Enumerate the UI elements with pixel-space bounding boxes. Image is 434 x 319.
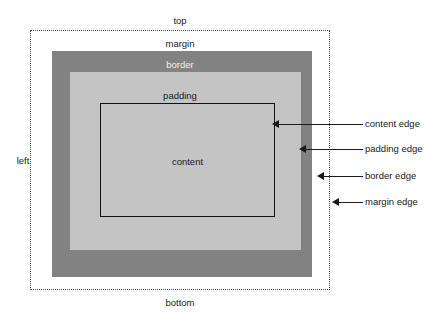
callout-border-edge: border edge [0, 170, 434, 182]
label-top: top [0, 16, 360, 26]
css-box-model-diagram: top margin border padding content left b… [0, 0, 434, 319]
arrow-head-icon [272, 120, 279, 128]
callout-content-edge: content edge [0, 118, 434, 130]
callout-label-padding-edge: padding edge [365, 144, 423, 154]
label-bottom: bottom [0, 298, 360, 308]
label-padding: padding [0, 91, 360, 101]
callout-label-content-edge: content edge [365, 119, 420, 129]
callout-margin-edge: margin edge [0, 196, 434, 208]
callout-label-border-edge: border edge [365, 171, 416, 181]
arrow-line [279, 124, 363, 125]
label-content: content [100, 157, 275, 167]
arrow-line [339, 202, 363, 203]
arrow-head-icon [317, 172, 324, 180]
callout-label-margin-edge: margin edge [365, 197, 418, 207]
arrow-line [306, 149, 363, 150]
callout-padding-edge: padding edge [0, 143, 434, 155]
arrow-head-icon [299, 145, 306, 153]
arrow-head-icon [332, 198, 339, 206]
arrow-line [324, 176, 363, 177]
label-margin: margin [0, 39, 360, 49]
label-border: border [0, 60, 360, 70]
label-left: left [8, 156, 38, 166]
